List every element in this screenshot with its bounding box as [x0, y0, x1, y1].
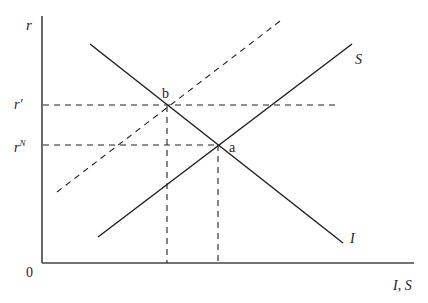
r-natural-sup: N: [18, 138, 26, 148]
saving-curve: [98, 44, 352, 237]
investment-curve-label: I: [349, 231, 356, 246]
diagram-canvas: r 0 I, S r′ rN S I b a: [0, 0, 428, 303]
r-prime-label: r′: [14, 97, 23, 112]
origin-label: 0: [26, 265, 33, 280]
point-b-label: b: [162, 86, 169, 101]
x-axis-label: I, S: [392, 278, 412, 293]
y-axis-label: r: [26, 17, 32, 33]
r-natural-label: rN: [14, 138, 26, 155]
investment-curve: [90, 44, 343, 243]
saving-curve-label: S: [355, 52, 362, 67]
is-diagram: r 0 I, S r′ rN S I b a: [0, 0, 428, 303]
point-a-label: a: [229, 140, 236, 155]
